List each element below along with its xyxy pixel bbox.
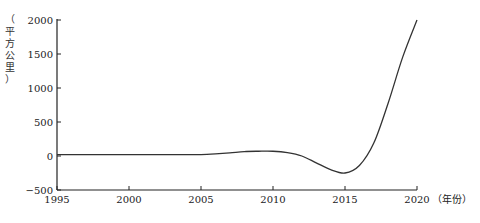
x-tick-label: 2000 (116, 194, 141, 205)
x-axis-label: （年份） (432, 193, 472, 205)
x-tick-label: 1995 (44, 194, 69, 205)
y-tick-label: 1000 (28, 83, 53, 94)
y-tick-label: 500 (34, 117, 53, 128)
x-tick-label: 2010 (260, 194, 285, 205)
x-tick-label: 2005 (188, 194, 213, 205)
y-tick-label: 1500 (28, 49, 53, 60)
x-tick-label: 2015 (332, 194, 357, 205)
y-tick-label: 0 (47, 151, 53, 162)
ticks: 2000150010005000−50019952000200520102015… (26, 15, 472, 206)
y-tick-label: 2000 (28, 15, 53, 26)
series-line (57, 20, 417, 173)
x-tick-label: 2020 (404, 194, 429, 205)
line-chart: 2000150010005000−50019952000200520102015… (0, 0, 480, 223)
axes (57, 19, 417, 190)
